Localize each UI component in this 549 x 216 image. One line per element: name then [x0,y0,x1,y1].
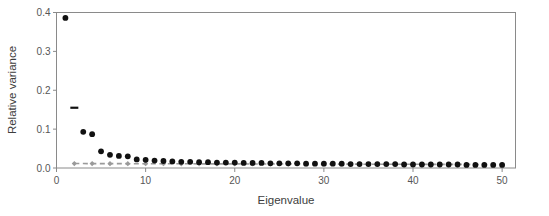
observed-point-marker [107,152,113,158]
observed-point-marker [187,159,193,165]
observed-point-marker [392,161,398,167]
observed-point-marker [490,162,496,168]
x-axis-title: Eigenvalue [258,194,315,206]
y-tick-label: 0.3 [37,46,51,57]
observed-point-marker [312,161,318,167]
observed-point-marker [472,162,478,168]
figure-background [0,0,549,216]
y-tick-label: 0.0 [37,163,51,174]
observed-point-marker [303,161,309,167]
scree-plot-figure: 0.00.10.20.30.4 01020304050 Eigenvalue R… [0,0,549,216]
observed-point-marker [348,161,354,167]
x-tick-label: 40 [407,175,419,186]
x-tick-label: 50 [497,175,509,186]
observed-point-marker [383,161,389,167]
observed-point-marker [481,162,487,168]
observed-point-marker [125,153,131,159]
observed-point-marker [464,162,470,168]
observed-point-marker [499,162,505,168]
observed-point-marker [276,160,282,166]
observed-point-marker [63,15,69,21]
observed-point-marker [437,162,443,168]
observed-point-marker [134,157,140,163]
observed-point-marker [366,161,372,167]
observed-point-marker [374,161,380,167]
observed-point-marker [285,160,291,166]
observed-point-marker [169,158,175,164]
observed-point-marker [339,161,345,167]
x-tick-label: 0 [54,175,60,186]
x-tick-label: 20 [229,175,241,186]
y-axis-title: Relative variance [6,46,18,134]
plot-canvas: 0.00.10.20.30.4 01020304050 Eigenvalue R… [0,0,549,216]
observed-point-marker [294,160,300,166]
observed-point-marker [268,160,274,166]
y-tick-label: 0.4 [37,7,51,18]
observed-point-marker [214,160,220,166]
observed-point-marker [196,159,202,165]
observed-point-marker [321,161,327,167]
observed-point-marker [330,161,336,167]
observed-point-marker [89,131,95,137]
observed-point-marker [178,159,184,165]
observed-point-marker [241,160,247,166]
observed-point-marker [98,148,104,154]
x-tick-label: 10 [140,175,152,186]
y-tick-label: 0.1 [37,124,51,135]
observed-point-marker [143,157,149,163]
x-tick-label: 30 [318,175,330,186]
observed-point-marker [152,158,158,164]
observed-point-marker [455,162,461,168]
observed-point-marker [428,162,434,168]
observed-point-marker [116,153,122,159]
observed-point-marker [205,159,211,165]
observed-point-marker [446,162,452,168]
observed-point-marker [410,162,416,168]
observed-point-marker [223,160,229,166]
observed-dash-marker [70,107,78,109]
observed-point-marker [357,161,363,167]
observed-point-marker [161,158,167,164]
observed-point-marker [232,160,238,166]
observed-point-marker [250,160,256,166]
observed-point-marker [401,162,407,168]
y-tick-label: 0.2 [37,85,51,96]
observed-point-marker [80,129,86,135]
observed-point-marker [419,162,425,168]
observed-point-marker [259,160,265,166]
